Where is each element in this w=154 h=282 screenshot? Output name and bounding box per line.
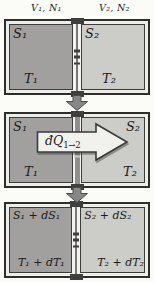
subsystem-2-box: S₂ T₂ — [81, 24, 145, 90]
entropy-label: S₁ — [13, 27, 72, 40]
wall-anchor-top — [71, 18, 84, 24]
subsystem-2-box: S₂ + dS₂ T₂ + dT₂ — [80, 207, 145, 273]
label-v2-n2: V₂, N₂ — [99, 2, 130, 13]
heat-flow-right-arrow-icon: đQ1→2 — [36, 122, 130, 162]
entropy-label: S₂ — [85, 27, 144, 40]
diathermal-wall-icon — [73, 24, 81, 90]
two-subsystem-heat-exchange-diagram: V₁, N₁ V₂, N₂ S₁ T₁ S₂ T₂ S₁ — [0, 0, 154, 282]
panel-final-state: S₁ + dS₁ T₁ + dT₁ S₂ + dS₂ T₂ + dT₂ — [4, 202, 150, 278]
subsystem-1-box: S₁ + dS₁ T₁ + dT₁ — [9, 207, 72, 273]
heat-transfer-label: đQ1→2 — [45, 133, 80, 150]
temperature-label: T₁ — [24, 165, 72, 178]
temperature-label: T₁ + dT₁ — [18, 257, 71, 268]
diathermal-wall-icon — [72, 207, 80, 273]
temperature-label: T₂ + dT₂ — [97, 257, 144, 268]
label-v1-n1: V₁, N₁ — [31, 2, 62, 13]
panel-initial-state: S₁ T₁ S₂ T₂ — [4, 19, 150, 95]
wall-hatch-icon — [74, 50, 80, 65]
temperature-label: T₁ — [24, 72, 72, 85]
subsystem-1-box: S₁ T₁ — [9, 24, 73, 90]
wall-anchor-bottom — [70, 274, 83, 280]
process-step-down-arrow-icon — [66, 95, 88, 111]
wall-anchor-top — [71, 111, 84, 117]
entropy-label: S₂ + dS₂ — [84, 210, 144, 221]
wall-hatch-icon — [73, 233, 79, 248]
entropy-label: S₁ + dS₁ — [13, 210, 71, 221]
temperature-label: T₂ — [102, 72, 144, 85]
process-step-down-arrow-icon — [66, 187, 88, 203]
panel-heat-transfer: S₁ T₁ S₂ T₂ đQ1→2 — [4, 112, 150, 188]
temperature-label: T₂ — [123, 165, 137, 178]
